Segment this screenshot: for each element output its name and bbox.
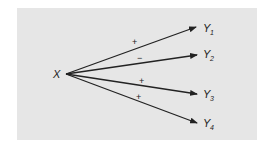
sign-y4: + bbox=[136, 92, 141, 102]
target-node-y4: Y 4 bbox=[203, 117, 214, 131]
sign-y1: + bbox=[132, 37, 137, 47]
arrow-x-y2 bbox=[66, 55, 197, 74]
svg-text:3: 3 bbox=[210, 95, 214, 102]
arrow-x-y4 bbox=[66, 74, 197, 123]
path-diagram: X + − + + Y 1 Y 2 Y 3 Y 4 bbox=[0, 0, 271, 149]
target-node-y3: Y 3 bbox=[203, 88, 214, 102]
target-node-y2: Y 2 bbox=[203, 48, 214, 62]
svg-text:2: 2 bbox=[209, 55, 214, 62]
source-node-label: X bbox=[52, 68, 61, 80]
arrow-x-y3 bbox=[66, 74, 197, 94]
svg-text:4: 4 bbox=[210, 124, 214, 131]
svg-text:1: 1 bbox=[210, 29, 214, 36]
sign-y3: + bbox=[139, 76, 144, 86]
target-node-y1: Y 1 bbox=[203, 22, 214, 36]
arrow-x-y1 bbox=[66, 27, 196, 74]
sign-y2: − bbox=[137, 53, 142, 63]
